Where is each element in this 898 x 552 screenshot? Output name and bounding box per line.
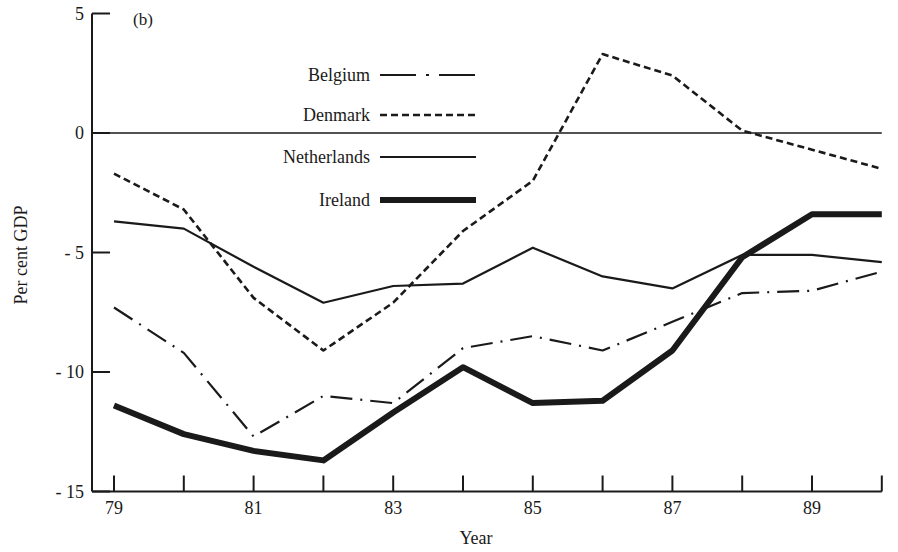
legend-label-netherlands: Netherlands (283, 147, 370, 167)
series-denmark (114, 54, 882, 350)
legend-label-ireland: Ireland (319, 190, 370, 210)
panel-label: (b) (133, 10, 153, 29)
y-tick-label: - 10 (56, 362, 85, 382)
x-tick-label: 83 (384, 498, 402, 518)
y-axis-label: Per cent GDP (11, 206, 31, 305)
legend-label-denmark: Denmark (303, 105, 370, 125)
y-tick-label: 5 (75, 4, 84, 24)
x-tick-label: 85 (524, 498, 542, 518)
axes: 50- 5- 10- 15798183858789 (56, 4, 882, 518)
series-netherlands (114, 221, 882, 302)
y-tick-label: 0 (75, 123, 84, 143)
x-axis-label: Year (459, 528, 492, 548)
y-tick-label: - 5 (65, 243, 85, 263)
legend: BelgiumDenmarkNetherlandsIreland (283, 65, 476, 210)
legend-label-belgium: Belgium (308, 65, 370, 85)
y-tick-label: - 15 (56, 482, 85, 502)
series-lines (114, 54, 882, 460)
x-tick-label: 87 (663, 498, 681, 518)
series-belgium (114, 272, 882, 437)
line-chart: 50- 5- 10- 15798183858789 BelgiumDenmark… (0, 0, 898, 552)
x-tick-label: 79 (105, 498, 123, 518)
x-tick-label: 89 (803, 498, 821, 518)
series-ireland (114, 214, 882, 460)
x-tick-label: 81 (245, 498, 263, 518)
